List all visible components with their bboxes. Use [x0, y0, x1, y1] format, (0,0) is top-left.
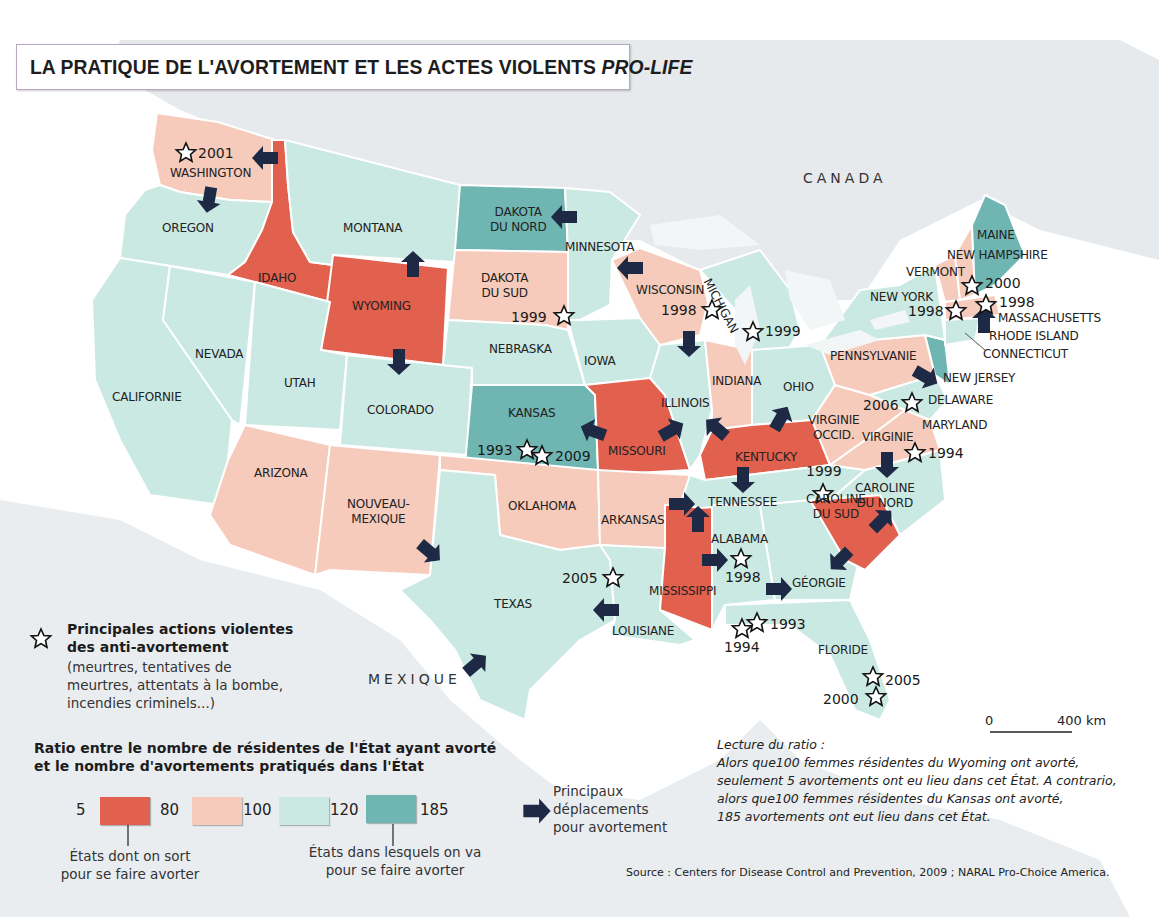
state-floride	[725, 600, 890, 720]
legend-swatch-120-185	[366, 795, 416, 823]
label-illinois: ILLINOIS	[661, 396, 709, 411]
legend-arrow-label: Principaux déplacements pour avortement	[553, 782, 667, 836]
state-mississippi	[660, 505, 712, 630]
label-delaware: DELAWARE	[928, 393, 993, 408]
legend-break-100: 100	[243, 801, 272, 819]
map-title: LA PRATIQUE DE L'AVORTEMENT ET LES ACTES…	[16, 44, 630, 90]
label-iowa: IOWA	[584, 354, 616, 369]
year-floride-1993: 1993	[770, 616, 806, 632]
year-michigan: 1999	[765, 323, 801, 339]
label-virginie-occ: VIRGINIE OCCID.	[808, 413, 859, 443]
label-canada: CANADA	[803, 170, 887, 186]
label-oregon: OREGON	[162, 221, 214, 236]
legend-leave-label: États dont on sort pour se faire avorter	[50, 847, 210, 883]
legend-break-5: 5	[76, 801, 86, 819]
label-kentucky: KENTUCKY	[735, 450, 797, 465]
label-tennessee: TENNESSEE	[708, 495, 777, 510]
legend-go-label: États dans lesquels on va pour se faire …	[295, 843, 495, 879]
year-massachusetts: 1998	[999, 294, 1035, 310]
label-indiana: INDIANA	[712, 374, 761, 389]
title-main: LA PRATIQUE DE L'AVORTEMENT ET LES ACTES…	[30, 55, 602, 78]
year-wisconsin: 1998	[661, 302, 697, 318]
label-connecticut: CONNECTICUT	[983, 347, 1068, 362]
label-missouri: MISSOURI	[608, 444, 666, 459]
legend-break-80: 80	[160, 801, 179, 819]
year-kansas-2009: 2009	[555, 448, 591, 464]
label-nebraska: NEBRASKA	[489, 342, 552, 357]
reading-note-title: Lecture du ratio :	[717, 736, 825, 754]
label-montana: MONTANA	[343, 221, 402, 236]
label-georgie: GÉORGIE	[792, 576, 846, 591]
label-caroline-nord: CAROLINE DU NORD	[855, 481, 915, 511]
label-wyoming: WYOMING	[352, 299, 411, 314]
label-maine: MAINE	[977, 228, 1015, 243]
legend-star-description: (meurtres, tentatives de meurtres, atten…	[67, 658, 283, 712]
year-floride-1994: 1994	[724, 639, 760, 655]
scale-distance: 400 km	[1057, 713, 1106, 728]
label-nouveau-mexique: NOUVEAU- MEXIQUE	[347, 497, 410, 527]
label-mississippi: MISSISSIPPI	[649, 584, 716, 599]
label-dakota-sud: DAKOTA DU SUD	[481, 271, 528, 301]
label-minnesota: MINNESOTA	[565, 240, 634, 255]
year-dakota-sud: 1999	[511, 309, 547, 325]
label-washington: WASHINGTON	[170, 166, 251, 181]
label-arkansas: ARKANSAS	[601, 513, 664, 528]
reading-note-body: Alors que100 femmes résidentes du Wyomin…	[717, 754, 1117, 826]
legend-break-120: 120	[330, 801, 359, 819]
label-mexique: MEXIQUE	[368, 671, 461, 687]
year-kansas-1993: 1993	[477, 442, 513, 458]
legend-star-title: Principales actions violentes des anti-a…	[67, 620, 293, 656]
year-alabama: 1998	[725, 569, 761, 585]
label-nevada: NEVADA	[195, 347, 243, 362]
title-italic: PRO-LIFE	[602, 55, 693, 78]
label-floride: FLORIDE	[818, 643, 868, 658]
legend-ratio-title: Ratio entre le nombre de résidentes de l…	[34, 739, 496, 775]
year-floride-2000: 2000	[823, 691, 859, 707]
year-louisiane: 2005	[562, 570, 598, 586]
year-vermont: 2000	[985, 275, 1021, 291]
label-ohio: OHIO	[783, 380, 814, 395]
year-new-york: 1998	[908, 303, 944, 319]
label-virginie: VIRGINIE	[862, 430, 913, 445]
legend-break-185: 185	[420, 801, 449, 819]
label-texas: TEXAS	[494, 597, 532, 612]
label-massachusetts: MASSACHUSETTS	[998, 311, 1101, 326]
label-wisconsin: WISCONSIN	[636, 283, 704, 298]
year-maryland: 2006	[863, 397, 899, 413]
label-louisiane: LOUISIANE	[612, 624, 674, 639]
label-dakota-nord: DAKOTA DU NORD	[490, 205, 546, 235]
legend-swatch-5-80	[100, 797, 150, 825]
year-virginie: 1994	[928, 445, 964, 461]
source-citation: Source : Centers for Disease Control and…	[626, 866, 1109, 879]
year-floride-2005: 2005	[885, 672, 921, 688]
scale-zero: 0	[985, 713, 993, 728]
label-arizona: ARIZONA	[254, 466, 308, 481]
label-maryland: MARYLAND	[922, 418, 987, 433]
legend-swatch-100-120	[279, 797, 329, 825]
label-new-hampshire: NEW HAMPSHIRE	[947, 248, 1048, 263]
label-californie: CALIFORNIE	[112, 390, 182, 405]
label-alabama: ALABAMA	[711, 532, 768, 547]
label-pennsylvanie: PENNSYLVANIE	[830, 349, 916, 364]
label-oklahoma: OKLAHOMA	[508, 499, 576, 514]
year-caroline-nord: 1999	[806, 463, 842, 479]
year-washington: 2001	[198, 145, 234, 161]
label-colorado: COLORADO	[367, 403, 434, 418]
label-vermont: VERMONT	[906, 265, 965, 280]
label-kansas: KANSAS	[508, 406, 555, 421]
label-rhode-island: RHODE ISLAND	[989, 329, 1079, 344]
label-utah: UTAH	[284, 376, 316, 391]
legend-swatch-80-100	[192, 797, 242, 825]
label-new-jersey: NEW JERSEY	[943, 371, 1015, 386]
label-idaho: IDAHO	[258, 271, 296, 286]
